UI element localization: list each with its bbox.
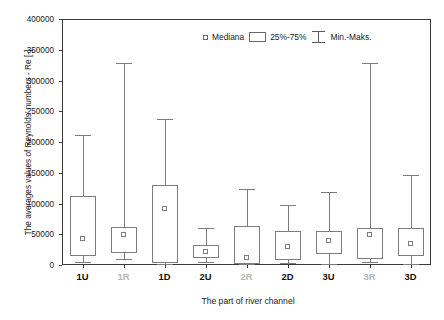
x-tick-mark [288,265,289,268]
legend-label-minmax: Min.-Maks. [330,32,371,42]
x-tick-label-2r: 2R [227,271,267,282]
legend-item-iqr: 25%-75% [249,32,306,42]
y-tick-label: 100000 [0,199,54,208]
median-square-icon [203,35,208,40]
chart-legend: Mediana 25%-75% Min.-Maks. [200,30,374,44]
x-tick-mark [165,265,166,268]
legend-label-iqr: 25%-75% [270,32,306,42]
x-tick-mark [329,265,330,268]
y-tick-mark [59,234,62,235]
y-tick-label: 150000 [0,168,54,177]
y-tick-label: 50000 [0,230,54,239]
y-tick-label: 350000 [0,45,54,54]
x-tick-label-1r: 1R [104,271,144,282]
x-tick-label-3r: 3R [350,271,390,282]
x-tick-mark [206,265,207,268]
y-tick-label: 200000 [0,138,54,147]
y-tick-mark [59,173,62,174]
y-tick-mark [59,111,62,112]
y-tick-mark [59,50,62,51]
whisker-bar-icon [311,31,326,43]
y-tick-mark [59,204,62,205]
y-tick-label: 0 [0,261,54,270]
y-tick-label: 400000 [0,15,54,24]
legend-item-median: Mediana [203,32,244,42]
y-tick-mark [59,19,62,20]
x-tick-label-3u: 3U [309,271,349,282]
x-tick-label-2u: 2U [186,271,226,282]
box-plot-chart: The averages values of Reynolds' numbers… [0,0,444,320]
x-tick-mark [411,265,412,268]
legend-item-minmax: Min.-Maks. [311,31,371,43]
y-tick-mark [59,81,62,82]
legend-label-median: Mediana [212,32,244,42]
x-tick-mark [83,265,84,268]
x-tick-mark [370,265,371,268]
x-tick-label-3d: 3D [391,271,431,282]
x-tick-label-1u: 1U [63,271,103,282]
plot-area [62,19,431,265]
x-axis-title: The part of river channel [63,296,433,306]
x-tick-mark [124,265,125,268]
y-tick-label: 300000 [0,76,54,85]
y-tick-label: 250000 [0,107,54,116]
iqr-rect-icon [249,32,266,42]
x-tick-label-2d: 2D [268,271,308,282]
y-tick-mark [59,265,62,266]
y-tick-mark [59,142,62,143]
x-tick-label-1d: 1D [145,271,185,282]
x-tick-mark [247,265,248,268]
